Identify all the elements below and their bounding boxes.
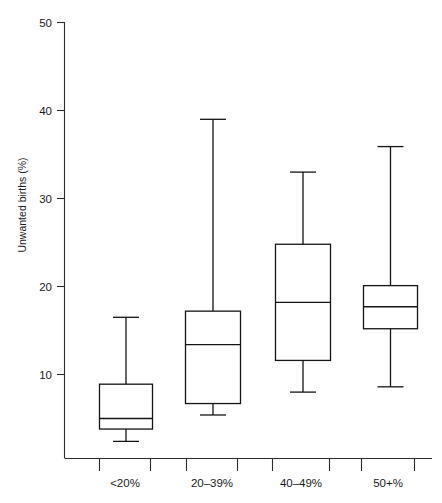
box-plot-1 bbox=[100, 317, 153, 441]
box-plot-3 bbox=[276, 172, 331, 392]
y-axis-ticks: 50 40 30 20 10 bbox=[39, 17, 64, 381]
y-tick-label-40: 40 bbox=[39, 105, 52, 117]
y-axis-title: Unwanted births (%) bbox=[16, 157, 28, 252]
box-plots-layer bbox=[100, 119, 418, 441]
boxplot-figure: 50 40 30 20 10 Unwanted births (%) <20% bbox=[0, 0, 442, 503]
box-plot-4 bbox=[364, 147, 418, 387]
y-tick-label-50: 50 bbox=[39, 17, 52, 29]
y-tick-label-30: 30 bbox=[39, 193, 52, 205]
x-axis-ticks bbox=[100, 459, 415, 472]
boxplot-svg: 50 40 30 20 10 Unwanted births (%) <20% bbox=[0, 0, 442, 503]
y-tick-label-10: 10 bbox=[39, 369, 52, 381]
box-1 bbox=[100, 384, 153, 429]
x-tick-label-4: 50+% bbox=[373, 477, 403, 489]
box-2 bbox=[186, 311, 241, 403]
box-plot-2 bbox=[186, 119, 241, 415]
y-tick-label-20: 20 bbox=[39, 281, 52, 293]
x-tick-label-1: <20% bbox=[110, 477, 140, 489]
x-axis-tick-labels: <20% 20–39% 40–49% 50+% bbox=[110, 477, 403, 489]
x-tick-label-2: 20–39% bbox=[191, 477, 233, 489]
x-tick-label-3: 40–49% bbox=[280, 477, 322, 489]
